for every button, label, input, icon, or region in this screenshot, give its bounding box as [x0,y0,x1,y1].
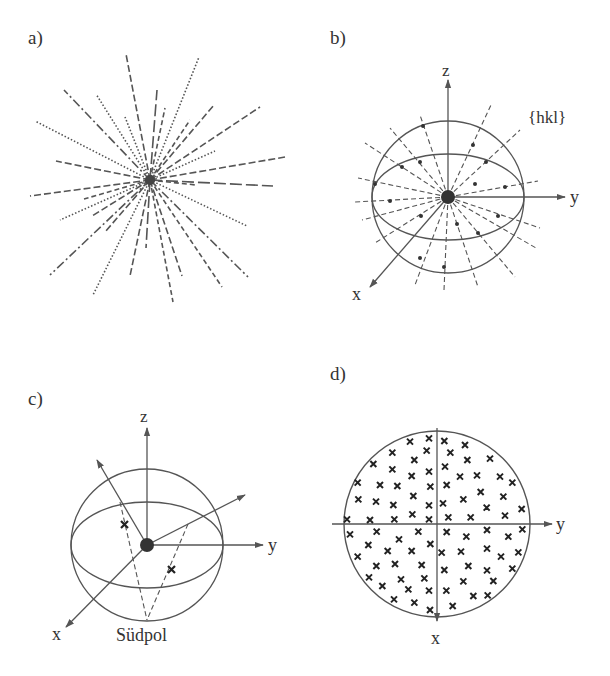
coordinate-axes [332,428,552,621]
panel-d: d) y x [330,363,565,648]
panel-c: c) z y x Südpol [28,388,277,645]
radiating-normals [30,54,285,302]
axis-y-label: y [268,535,277,555]
center-dot [140,538,154,552]
plane-family-label: {hkl} [528,108,566,127]
south-pole-label: Südpol [116,625,167,645]
axis-z-label: z [140,407,148,426]
axis-y-label: y [556,514,565,534]
axis-x-label: x [52,624,61,644]
axis-x-label: x [431,628,440,648]
panel-b: b) z y x {hkl [330,27,579,304]
diagram-canvas: a) [0,0,610,676]
coordinate-axes [66,428,263,627]
axis-y-label: y [570,187,579,207]
projection-lines [120,502,188,620]
center-dot [145,175,155,185]
center-dot [441,190,455,204]
axis-x-label: x [352,284,361,304]
panel-c-label: c) [28,388,43,410]
panel-a: a) [28,27,285,302]
panel-a-label: a) [28,27,43,49]
axis-z-label: z [442,61,450,80]
panel-b-label: b) [330,27,346,49]
panel-d-label: d) [330,363,346,385]
